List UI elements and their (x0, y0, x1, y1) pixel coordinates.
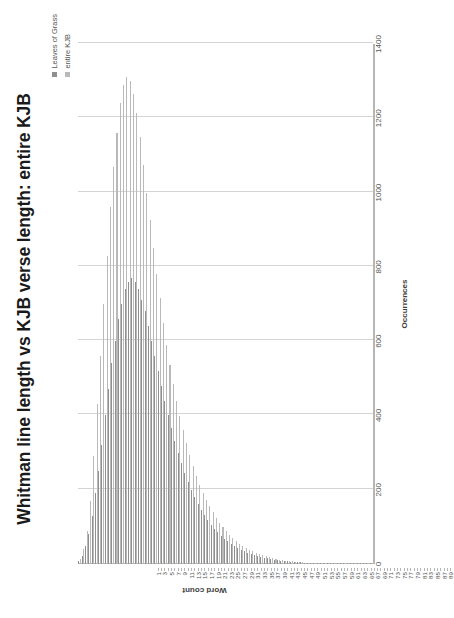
category-tick-mark (277, 568, 278, 571)
category-tick-mark (214, 568, 215, 571)
category-tick-mark (287, 568, 288, 571)
category-tick-mark (228, 568, 229, 571)
category-tick-mark (247, 568, 248, 571)
category-tick-mark (404, 568, 405, 571)
category-tick-mark (191, 568, 192, 571)
legend-swatch-icon (52, 72, 57, 77)
category-tick-mark (361, 568, 362, 571)
value-axis: 0200400600800100012001400 (374, 44, 400, 564)
category-tick-mark (430, 568, 431, 571)
category-tick-mark (410, 568, 411, 571)
category-tick-mark (184, 568, 185, 571)
category-tick-mark (317, 568, 318, 571)
bar-group (370, 44, 373, 564)
category-tick-mark (261, 568, 262, 571)
category-tick-mark (188, 568, 189, 571)
category-tick-mark (194, 568, 195, 571)
category-tick-mark (181, 568, 182, 571)
category-tick-mark (251, 568, 252, 571)
category-tick-mark (231, 568, 232, 571)
category-tick-mark (437, 568, 438, 571)
category-tick-mark (367, 568, 368, 571)
category-tick-mark (397, 568, 398, 571)
category-tick-mark (297, 568, 298, 571)
category-tick-mark (211, 568, 212, 571)
category-tick-mark (344, 568, 345, 571)
category-tick-mark (334, 568, 335, 571)
value-axis-title: Occurrences (400, 44, 409, 564)
category-tick-mark (331, 568, 332, 571)
bar[interactable] (372, 563, 373, 564)
category-tick-mark (291, 568, 292, 571)
category-tick-mark (164, 568, 165, 571)
category-tick-label: 89 (447, 572, 454, 579)
category-tick-mark (294, 568, 295, 571)
category-tick-mark (321, 568, 322, 571)
value-tick-label: 400 (374, 409, 383, 422)
value-tick-label: 0 (374, 562, 383, 566)
category-tick-mark (427, 568, 428, 571)
category-tick-mark (204, 568, 205, 571)
category-tick-mark (281, 568, 282, 571)
category-tick-mark (284, 568, 285, 571)
category-tick-mark (218, 568, 219, 571)
value-tick-label: 800 (374, 260, 383, 273)
category-tick-mark (394, 568, 395, 571)
category-tick-mark (274, 568, 275, 571)
category-tick-mark (241, 568, 242, 571)
category-tick-mark (444, 568, 445, 571)
category-tick-mark (424, 568, 425, 571)
legend-swatch-icon (65, 72, 70, 77)
category-tick-mark (407, 568, 408, 571)
value-tick-label: 1200 (374, 109, 383, 127)
category-tick-mark (208, 568, 209, 571)
category-tick-mark (234, 568, 235, 571)
category-tick-mark (327, 568, 328, 571)
category-tick-mark (377, 568, 378, 571)
gridline (78, 42, 373, 43)
category-tick-mark (387, 568, 388, 571)
category-tick-mark (434, 568, 435, 571)
category-tick-mark (264, 568, 265, 571)
category-tick-mark (178, 568, 179, 571)
category-tick-mark (380, 568, 381, 571)
value-tick-label: 1400 (374, 35, 383, 53)
category-tick-mark (337, 568, 338, 571)
category-tick-mark (301, 568, 302, 571)
legend-item-leaves-of-grass[interactable]: Leaves of Grass (50, 14, 59, 77)
category-tick-mark (304, 568, 305, 571)
category-tick-mark (198, 568, 199, 571)
category-tick-mark (354, 568, 355, 571)
plot-wrapper (78, 44, 374, 564)
category-tick-mark (384, 568, 385, 571)
category-tick-mark (158, 568, 159, 571)
category-axis-title: Word count (125, 586, 285, 595)
value-tick-label: 200 (374, 483, 383, 496)
category-tick-mark (440, 568, 441, 571)
category-tick-mark (374, 568, 375, 571)
category-tick-mark (357, 568, 358, 571)
category-tick-mark (237, 568, 238, 571)
value-tick-label: 1000 (374, 184, 383, 202)
category-tick-mark (168, 568, 169, 571)
category-tick-mark (341, 568, 342, 571)
category-tick-mark (351, 568, 352, 571)
category-tick-mark (171, 568, 172, 571)
category-tick-mark (221, 568, 222, 571)
category-tick-mark (414, 568, 415, 571)
category-tick-mark (420, 568, 421, 571)
category-tick-mark (314, 568, 315, 571)
category-tick-mark (271, 568, 272, 571)
category-tick-mark (161, 568, 162, 571)
category-tick-mark (371, 568, 372, 571)
legend-item-entire-kjb[interactable]: entire KJB (63, 14, 72, 77)
category-tick-mark (447, 568, 448, 571)
category-tick-mark (244, 568, 245, 571)
category-tick-mark (267, 568, 268, 571)
category-tick-mark (201, 568, 202, 571)
page-title: Whitman line length vs KJB verse length:… (14, 0, 35, 618)
value-tick-label: 600 (374, 334, 383, 347)
category-tick-mark (347, 568, 348, 571)
